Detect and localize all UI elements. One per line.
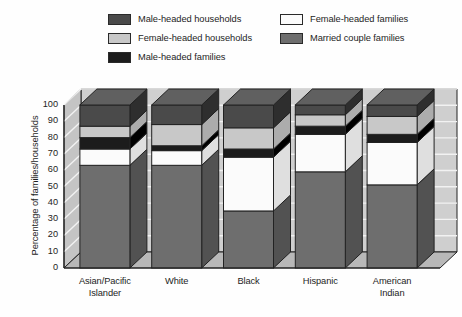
y-tick-label: 40: [32, 198, 58, 207]
y-tick-label: 30: [32, 214, 58, 223]
bar-segment[interactable]: [224, 211, 274, 268]
bar-segment[interactable]: [80, 165, 130, 268]
x-tick-label-line: Islander: [58, 288, 152, 300]
bar-segment[interactable]: [152, 151, 202, 166]
y-tick-label: 20: [32, 230, 58, 239]
bar-segment[interactable]: [367, 134, 417, 142]
bar-segment[interactable]: [224, 157, 274, 211]
bar-segment[interactable]: [224, 105, 274, 128]
y-tick-label: 90: [32, 116, 58, 125]
bar-segment[interactable]: [295, 126, 345, 134]
bar-segment[interactable]: [367, 116, 417, 134]
bar-segment[interactable]: [367, 185, 417, 268]
bar-segment[interactable]: [295, 115, 345, 126]
y-tick-label: 0: [32, 263, 58, 272]
y-tick-label: 100: [32, 100, 58, 109]
chart-root: Male-headed households Female-headed hou…: [0, 0, 462, 317]
x-tick-label: AmericanIndian: [345, 276, 439, 299]
bar-segment[interactable]: [367, 105, 417, 116]
bar-segment[interactable]: [80, 138, 130, 149]
y-tick-label: 80: [32, 133, 58, 142]
bar-segment-side: [417, 169, 434, 268]
bar-segment-side: [130, 149, 147, 268]
plot-3d-walls: [0, 0, 462, 317]
plot-area: 1009080706050403020100 Asian/PacificIsla…: [0, 0, 462, 317]
bar-segment[interactable]: [80, 126, 130, 137]
bar-segment[interactable]: [224, 128, 274, 149]
bar-segment-side: [345, 156, 362, 268]
y-tick-label: 10: [32, 247, 58, 256]
bar-segment[interactable]: [152, 165, 202, 268]
bar-segment[interactable]: [152, 125, 202, 146]
y-tick-label: 50: [32, 182, 58, 191]
bar-segment-side: [202, 149, 219, 268]
bar-segment[interactable]: [367, 142, 417, 184]
bar-segment[interactable]: [295, 172, 345, 268]
y-axis-ticks: 1009080706050403020100: [30, 0, 58, 317]
bar-segment[interactable]: [295, 105, 345, 115]
x-tick-label-line: Indian: [345, 288, 439, 300]
bar-segment[interactable]: [80, 149, 130, 165]
x-tick-label-line: American: [345, 276, 439, 288]
y-tick-label: 60: [32, 165, 58, 174]
y-tick-label: 70: [32, 149, 58, 158]
bar-segment[interactable]: [224, 149, 274, 157]
bar-segment[interactable]: [152, 105, 202, 125]
bar-segment[interactable]: [80, 105, 130, 126]
bar-segment[interactable]: [295, 134, 345, 171]
bar-segment[interactable]: [152, 146, 202, 151]
